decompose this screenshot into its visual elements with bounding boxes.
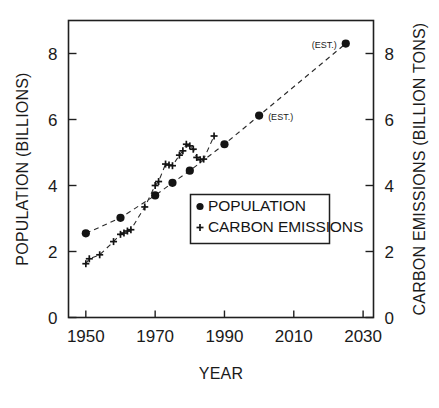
data-point-population	[342, 40, 350, 48]
legend-label: CARBON EMISSIONS	[208, 218, 363, 235]
chart-figure: 19501970199020102030 02468 02468 (EST.)(…	[0, 0, 439, 408]
x-tick-label: 2010	[275, 327, 313, 346]
x-tick-label: 1990	[206, 327, 244, 346]
x-axis-title: YEAR	[199, 365, 243, 382]
y-tick-label-right: 2	[385, 243, 394, 262]
x-tick-label: 1950	[67, 327, 105, 346]
population-carbon-emissions-chart: 19501970199020102030 02468 02468 (EST.)(…	[0, 0, 439, 408]
y-tick-label-left: 8	[48, 45, 57, 64]
y-tick-label-left: 4	[48, 177, 57, 196]
x-tick-label: 1970	[136, 327, 174, 346]
legend-label: POPULATION	[208, 197, 306, 214]
y-tick-label-left: 0	[48, 309, 57, 328]
data-point-population	[151, 191, 159, 199]
data-point-population	[220, 140, 228, 148]
y-axis-left-title: POPULATION (BILLIONS)	[14, 72, 31, 265]
x-tick-label: 2030	[344, 327, 382, 346]
legend-marker-population	[196, 203, 203, 210]
y-axis-right-title: CARBON EMISSIONS (BILLION TONS)	[411, 23, 428, 316]
data-point-population	[116, 214, 124, 222]
y-tick-label-left: 6	[48, 111, 57, 130]
y-tick-label-right: 0	[385, 309, 394, 328]
estimate-annotation: (EST.)	[312, 40, 337, 50]
y-tick-label-right: 6	[385, 111, 394, 130]
data-point-population	[168, 179, 176, 187]
y-tick-label-left: 2	[48, 243, 57, 262]
estimate-annotation: (EST.)	[268, 112, 293, 122]
data-point-population	[186, 167, 194, 175]
y-tick-label-right: 8	[385, 45, 394, 64]
y-tick-label-right: 4	[385, 177, 394, 196]
data-point-population	[255, 111, 263, 119]
data-point-population	[82, 229, 90, 237]
